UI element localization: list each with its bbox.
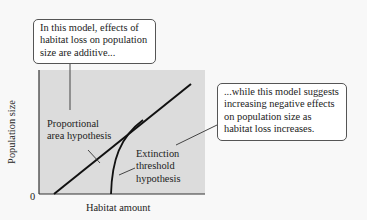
extinction-threshold-label: Extinction threshold hypothesis xyxy=(136,148,180,185)
x-axis-label: Habitat amount xyxy=(86,202,150,214)
label-line: threshold xyxy=(136,160,180,172)
label-line: Proportional xyxy=(47,118,111,130)
callout-text: habitat loss increases. xyxy=(224,123,341,135)
proportional-area-label: Proportional area hypothesis xyxy=(47,118,111,143)
right-callout: ...while this model suggests increasing … xyxy=(217,83,347,141)
callout-text: on population size as xyxy=(224,111,341,123)
label-line: area hypothesis xyxy=(47,130,111,142)
callout-text: ...while this model suggests xyxy=(224,86,341,98)
threshold-label-pointer xyxy=(119,168,135,175)
callout-text: increasing negative effects xyxy=(224,98,341,110)
label-line: hypothesis xyxy=(136,173,180,185)
callout-text: habitat loss on population xyxy=(40,34,150,46)
label-line: Extinction xyxy=(136,148,180,160)
left-callout: In this model, effects of habitat loss o… xyxy=(33,19,156,64)
callout-text: size are additive... xyxy=(40,47,150,59)
callout-text: In this model, effects of xyxy=(40,22,150,34)
y-axis-label: Population size xyxy=(6,100,17,164)
right-callout-pointer xyxy=(176,125,217,145)
origin-label: 0 xyxy=(30,191,35,203)
